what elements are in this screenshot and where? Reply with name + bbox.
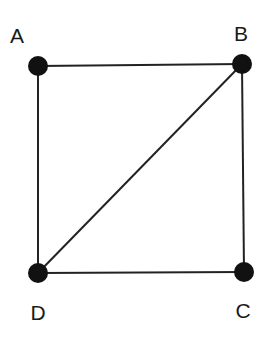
graph-diagram: A B C D	[0, 0, 266, 342]
label-d: D	[30, 301, 45, 324]
edge-b-c	[242, 64, 244, 272]
node-a	[28, 56, 48, 76]
edge-d-b	[38, 64, 242, 273]
node-d	[28, 263, 48, 283]
node-c	[234, 262, 254, 282]
edges	[38, 64, 244, 273]
node-b	[232, 54, 252, 74]
label-c: C	[235, 299, 250, 322]
label-b: B	[234, 22, 248, 45]
edge-c-d	[38, 272, 244, 273]
edge-a-b	[38, 64, 242, 66]
label-a: A	[10, 24, 24, 47]
